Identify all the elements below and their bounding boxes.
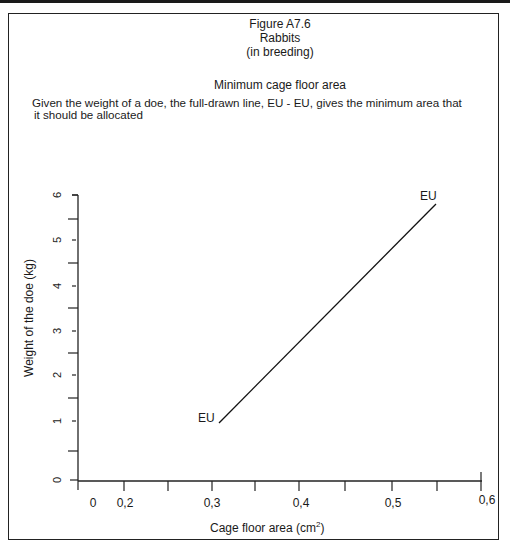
eu-line — [219, 204, 436, 423]
y-ticks — [68, 195, 78, 480]
x-tick-0-4: 0,4 — [286, 496, 316, 510]
eu-label-end: EU — [420, 189, 437, 203]
x-tick-0-2: 0,2 — [110, 496, 140, 510]
chart-plot — [0, 0, 510, 549]
eu-label-start: EU — [198, 411, 215, 425]
y-tick-3: 3 — [50, 328, 64, 334]
x-tick-0-3: 0,3 — [197, 496, 227, 510]
y-tick-1: 1 — [50, 418, 64, 424]
x-tick-0-5: 0,5 — [378, 496, 408, 510]
y-tick-4: 4 — [50, 283, 64, 289]
x-tick-0: 0 — [83, 496, 103, 510]
y-tick-0: 0 — [50, 477, 64, 483]
y-tick-2: 2 — [50, 372, 64, 378]
y-axis-label: Weight of the doe (kg) — [22, 258, 36, 378]
y-tick-6: 6 — [50, 192, 64, 198]
y-tick-5: 5 — [50, 237, 64, 243]
x-axis-label: Cage floor area (cm2) — [210, 518, 325, 535]
x-tick-0-6: 0,6 — [472, 493, 502, 507]
